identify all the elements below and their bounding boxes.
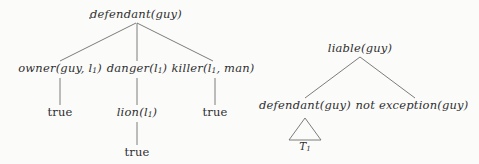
subtree-triangle (289, 118, 321, 140)
node-label-tail: , man) (216, 61, 254, 75)
subtree-triangle-label: T1 (299, 140, 311, 153)
node-label-tail: ) (97, 61, 102, 75)
node-true-under-owner: true (47, 106, 72, 119)
node-label: true (202, 105, 227, 119)
node-danger-l1: danger(l1) (107, 62, 168, 77)
node-not-exception-guy: not exception(guy) (356, 99, 469, 112)
node-defendant-guy-subgoal: defendant(guy) (259, 99, 351, 112)
edge-liable-defendant (305, 57, 360, 98)
node-label: liable(guy) (328, 41, 393, 55)
node-label: true (124, 145, 149, 159)
node-label-tail: ) (153, 105, 158, 119)
node-label-tail: ) (163, 61, 168, 75)
node-owner-guy-l1: owner(guy, l1) (18, 62, 102, 77)
edge-root-killer (137, 23, 213, 61)
node-label: killer(l (171, 61, 211, 75)
node-defendant-guy-root: defendant(guy) (90, 8, 182, 21)
proof-tree-figure: defendant(guy) owner(guy, l1) danger(l1)… (0, 0, 479, 164)
tree-edges (0, 0, 479, 164)
node-label: danger(l (107, 61, 158, 75)
edge-liable-notexception (360, 57, 415, 98)
node-label: defendant(guy) (259, 98, 351, 112)
triangle-label-subscript: 1 (306, 144, 311, 153)
node-lion-l1: lion(l1) (117, 106, 158, 121)
node-liable-guy-root: liable(guy) (328, 42, 393, 55)
node-label: lion(l (117, 105, 148, 119)
node-label: true (47, 105, 72, 119)
node-true-under-killer: true (202, 106, 227, 119)
edge-root-owner (60, 23, 136, 61)
node-label: defendant(guy) (90, 7, 182, 21)
node-killer-l1-man: killer(l1, man) (171, 62, 254, 77)
node-label: not exception(guy) (356, 98, 469, 112)
node-label: owner(guy, l (18, 61, 92, 75)
node-true-under-lion: true (124, 146, 149, 159)
triangle-label-text: T (299, 140, 306, 152)
